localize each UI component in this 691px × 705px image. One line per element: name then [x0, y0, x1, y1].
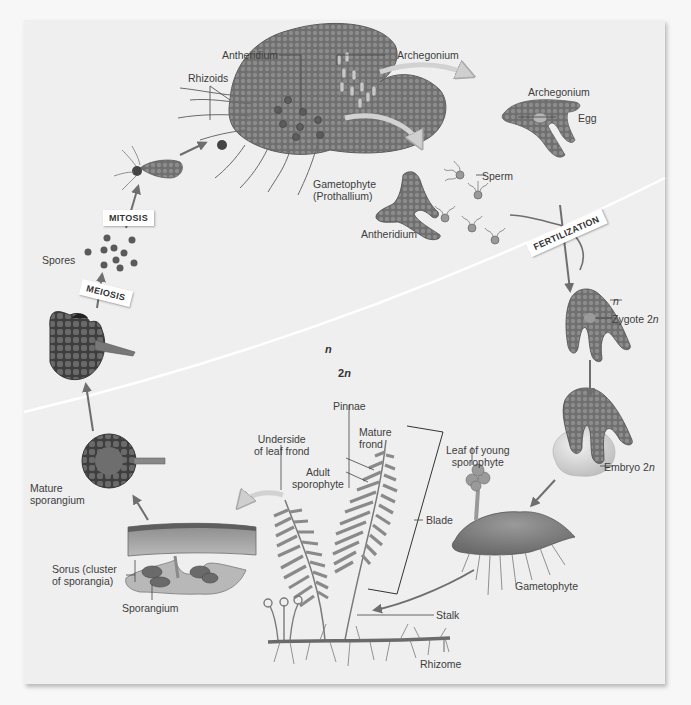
label-adult-line1: Adult	[306, 466, 330, 478]
label-embryo-var: n	[649, 461, 655, 473]
life-cycle-illustration	[0, 0, 691, 705]
young-gametophyte-illustration	[114, 146, 182, 190]
label-spores: Spores	[42, 254, 75, 266]
diploid-region-label: 2n	[338, 367, 351, 379]
label-sorus-line1: Sorus (cluster	[52, 563, 117, 575]
label-zygote-var: n	[653, 313, 659, 325]
label-sperm: Sperm	[482, 170, 513, 182]
label-archegonium-top: Archegonium	[397, 49, 459, 61]
label-blade: Blade	[426, 514, 453, 526]
label-rhizome: Rhizome	[420, 658, 461, 670]
haploid-region-label: n	[325, 343, 332, 355]
label-pinnae: Pinnae	[333, 400, 366, 412]
label-leaf-young-line2: sporophyte	[452, 456, 504, 468]
label-sorus: Sorus (clusterof sporangia)	[52, 563, 117, 587]
label-underside-line2: of leaf frond	[254, 445, 309, 457]
label-rhizoids: Rhizoids	[188, 72, 228, 84]
label-gametophyte-prothallium: Gametophyte(Prothallium)	[313, 178, 376, 202]
young-sporophyte-illustration	[452, 464, 575, 595]
label-mature-sporangium: Maturesporangium	[30, 482, 85, 506]
label-zygote: Zygote 2n	[612, 313, 659, 325]
label-sorus-line2: of sporangia)	[52, 575, 113, 587]
spores-illustration	[85, 235, 138, 272]
label-adult-sporophyte: Adultsporophyte	[292, 466, 344, 490]
label-underside-line1: Underside	[258, 433, 306, 445]
label-mature-frond-line2: frond	[359, 438, 383, 450]
diploid-variable: n	[344, 367, 351, 379]
label-gametophyte-line1: Gametophyte	[313, 178, 376, 190]
label-egg: Egg	[578, 112, 597, 124]
label-mature-frond-line1: Mature	[359, 426, 392, 438]
label-adult-line2: sporophyte	[292, 478, 344, 490]
label-sporangium: Sporangium	[122, 602, 179, 614]
label-zygote-n: n	[613, 295, 619, 307]
releasing-sporangium-illustration	[50, 312, 135, 380]
label-leaf-young-line1: Leaf of young	[446, 444, 510, 456]
label-archegonium-right: Archegonium	[528, 86, 590, 98]
label-embryo: Embryo 2n	[604, 461, 655, 473]
label-zygote-text: Zygote 2	[612, 313, 653, 325]
label-mature-sporangium-line2: sporangium	[30, 494, 85, 506]
label-antheridium-mid: Antheridium	[361, 228, 417, 240]
label-gametophyte-line2: (Prothallium)	[313, 190, 373, 202]
label-leaf-young-sporophyte: Leaf of youngsporophyte	[446, 444, 510, 468]
blade-bracket	[368, 426, 443, 594]
label-gametophyte-bottom: Gametophyte	[515, 580, 578, 592]
sorus-cross-section-illustration	[126, 523, 256, 594]
archegonium-egg-illustration	[502, 100, 580, 157]
label-mature-sporangium-line1: Mature	[30, 482, 63, 494]
label-stalk: Stalk	[436, 609, 459, 621]
label-mature-frond: Maturefrond	[359, 426, 392, 450]
label-underside-leaf-frond: Undersideof leaf frond	[254, 433, 309, 457]
label-antheridium-top: Antheridium	[222, 49, 278, 61]
mature-sporangium-illustration	[82, 434, 165, 488]
mitosis-tag: MITOSIS	[103, 210, 154, 226]
label-embryo-text: Embryo 2	[604, 461, 649, 473]
